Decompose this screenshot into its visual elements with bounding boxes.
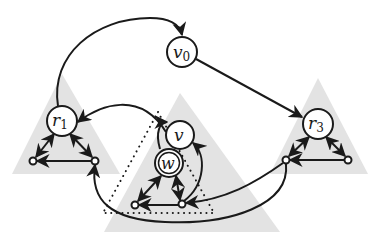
graph-diagram: v0 r1 v r3 w <box>0 0 373 252</box>
node-v0: v0 <box>167 37 197 67</box>
node-w-label: w <box>161 154 175 173</box>
small-node-w-right <box>179 201 186 208</box>
subtree-triangle-v <box>104 93 280 232</box>
node-r1: r1 <box>47 106 77 136</box>
small-node-r3-right <box>345 157 352 164</box>
node-v-label: v <box>174 125 184 145</box>
node-v: v <box>166 121 194 149</box>
node-w: w <box>155 149 183 177</box>
small-node-r1-left <box>30 158 37 165</box>
small-node-w-left <box>132 202 139 209</box>
node-r3: r3 <box>303 109 333 139</box>
small-node-r3-left <box>283 157 290 164</box>
edge-v0-r3 <box>196 59 302 117</box>
small-node-r1-right <box>92 158 99 165</box>
edge-r1-v0 <box>57 18 182 106</box>
